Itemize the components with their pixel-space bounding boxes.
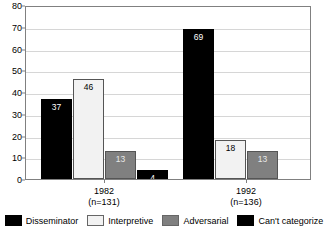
x-axis-group-sample-size: (n=131): [64, 197, 144, 208]
bar-value-label: 37: [42, 103, 71, 112]
y-axis-tick-label: 40: [0, 89, 22, 98]
x-axis-group-year: 1982: [64, 186, 144, 197]
legend-label: Adversarial: [183, 216, 228, 226]
bar-value-label: 13: [248, 155, 277, 164]
legend-swatch-icon: [87, 215, 104, 226]
bar-value-label: 69: [184, 33, 213, 42]
chart-legend: DisseminatorInterpretiveAdversarialCan't…: [0, 213, 328, 228]
bar: 37: [41, 99, 72, 179]
y-axis-tick-label: 70: [0, 23, 22, 32]
x-axis-tick-mark: [246, 180, 247, 183]
y-axis-tick-label: 60: [0, 45, 22, 54]
legend-swatch-icon: [237, 215, 254, 226]
y-axis: 80706050403020100: [0, 6, 22, 180]
legend-entry[interactable]: Can't categorize: [237, 215, 323, 226]
bar: 18: [215, 140, 246, 179]
y-axis-tick-label: 80: [0, 2, 22, 11]
gridline: [26, 94, 310, 95]
y-axis-tick-label: 0: [0, 176, 22, 185]
legend-swatch-icon: [162, 215, 179, 226]
y-axis-tick-label: 10: [0, 154, 22, 163]
legend-entry[interactable]: Interpretive: [87, 215, 153, 226]
y-axis-tick-label: 30: [0, 110, 22, 119]
bar-value-label: 4: [138, 174, 167, 180]
bar: 13: [247, 151, 278, 179]
y-axis-tick-label: 50: [0, 67, 22, 76]
bar: 46: [73, 79, 104, 179]
bar-chart-figure: 80706050403020100 3746134691813 1982(n=1…: [0, 0, 328, 234]
y-axis-tick-label: 20: [0, 132, 22, 141]
bar: 13: [105, 151, 136, 179]
bar-value-label: 18: [216, 144, 245, 153]
gridline: [26, 72, 310, 73]
plot-area: 3746134691813: [25, 6, 311, 180]
legend-entry[interactable]: Disseminator: [5, 215, 79, 226]
bar-value-label: 46: [74, 83, 103, 92]
x-axis-tick-mark: [104, 180, 105, 183]
bar: 69: [183, 29, 214, 179]
legend-swatch-icon: [5, 215, 22, 226]
gridline: [26, 51, 310, 52]
bar-value-label: 13: [106, 155, 135, 164]
legend-entry[interactable]: Adversarial: [162, 215, 228, 226]
legend-label: Can't categorize: [258, 216, 323, 226]
x-axis-group-label: 1992(n=136): [206, 186, 286, 208]
x-axis-group-sample-size: (n=136): [206, 197, 286, 208]
gridline: [26, 29, 310, 30]
bar: 4: [137, 170, 168, 179]
x-axis-group-label: 1982(n=131): [64, 186, 144, 208]
legend-label: Disseminator: [26, 216, 79, 226]
legend-label: Interpretive: [108, 216, 153, 226]
x-axis-group-year: 1992: [206, 186, 286, 197]
